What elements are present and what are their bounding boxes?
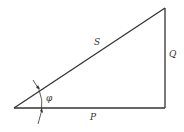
label-p: P [89, 112, 97, 122]
label-q: Q [169, 49, 177, 59]
label-phi: φ [46, 93, 53, 103]
power-triangle-diagram: S Q P φ [0, 0, 184, 132]
label-s: S [94, 37, 100, 47]
side-s [14, 8, 165, 108]
